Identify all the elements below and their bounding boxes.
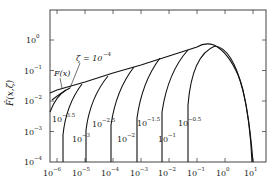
svg-text:10: 10 (43, 169, 53, 178)
svg-text:−4: −4 (34, 155, 43, 161)
svg-text:10: 10 (117, 135, 127, 144)
svg-text:−2: −2 (127, 132, 135, 138)
curve-zeta-1e-0.5 (188, 46, 252, 162)
svg-text:10: 10 (24, 67, 34, 76)
svg-text:−1: −1 (34, 64, 42, 70)
svg-text:10: 10 (158, 169, 168, 178)
svg-text:−4: −4 (103, 51, 112, 57)
svg-text:10: 10 (101, 169, 111, 178)
svg-text:−6: −6 (53, 166, 62, 172)
svg-text:0: 0 (36, 33, 40, 39)
svg-text:10: 10 (216, 169, 226, 178)
svg-text:10: 10 (24, 97, 34, 106)
svg-text:−3: −3 (34, 125, 43, 131)
svg-text:−3: −3 (140, 166, 149, 172)
svg-text:−1: −1 (197, 166, 205, 172)
svg-text:−3: −3 (82, 132, 91, 138)
svg-text:−4: −4 (111, 166, 120, 172)
svg-text:10: 10 (187, 169, 197, 178)
curve-zeta-1e-1 (162, 50, 188, 162)
curve-zeta-1e-3 (63, 84, 82, 162)
curve-zeta-1e-2 (111, 67, 134, 162)
svg-text:1: 1 (254, 166, 258, 172)
svg-text:−1: −1 (168, 132, 176, 138)
svg-text:10: 10 (52, 115, 62, 124)
svg-text:−1.5: −1.5 (147, 116, 161, 122)
annotations: ζ = 10−4 F(x) 10−3.5 10−3 10−2.5 10−2 10… (52, 51, 202, 144)
svg-text:−2: −2 (34, 94, 42, 100)
svg-text:10: 10 (244, 169, 254, 178)
svg-text:10: 10 (130, 169, 140, 178)
svg-text:10: 10 (158, 135, 168, 144)
svg-text:−2.5: −2.5 (102, 117, 116, 123)
svg-text:10: 10 (72, 135, 82, 144)
svg-text:10: 10 (24, 128, 34, 137)
svg-text:10: 10 (24, 158, 34, 167)
svg-text:−2: −2 (168, 166, 176, 172)
y-tick-labels: 100 10−1 10−2 10−3 10−4 (24, 33, 43, 167)
svg-text:−3.5: −3.5 (62, 112, 76, 118)
x-tick-labels: 10−6 10−5 10−4 10−3 10−2 10−1 100 101 (43, 166, 258, 178)
svg-text:10: 10 (26, 36, 36, 45)
svg-text:F(x): F(x) (53, 69, 70, 78)
svg-text:0: 0 (226, 166, 230, 172)
svg-text:10: 10 (178, 119, 188, 128)
svg-text:10: 10 (72, 169, 82, 178)
curve-zeta-1e-1.5 (137, 58, 160, 162)
y-axis-label: F̂(x,ζ) (4, 79, 15, 107)
svg-text:10: 10 (137, 119, 147, 128)
chart: 100 10−1 10−2 10−3 10−4 10−6 10−5 10−4 1… (0, 0, 279, 184)
svg-text:−5: −5 (82, 166, 91, 172)
svg-text:10: 10 (92, 120, 102, 129)
svg-text:ζ = 10: ζ = 10 (76, 54, 102, 63)
svg-text:−0.5: −0.5 (188, 116, 202, 122)
